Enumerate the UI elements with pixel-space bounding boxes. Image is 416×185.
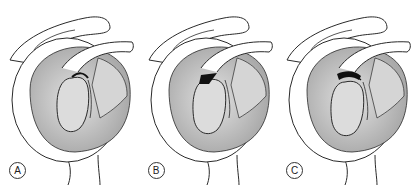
panel-label-a: A (9, 162, 26, 179)
shoulder-figure: A B (0, 0, 416, 185)
panel-b: B (139, 0, 278, 185)
panel-c: C (277, 0, 416, 185)
shoulder-illustration-b (139, 0, 278, 185)
shoulder-illustration-a (0, 0, 139, 185)
panel-a: A (0, 0, 139, 185)
shoulder-illustration-c (277, 0, 416, 185)
panel-label-b: B (148, 162, 165, 179)
